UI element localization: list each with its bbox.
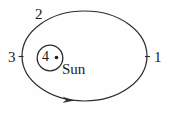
orbit-diagram-canvas [0,0,169,115]
sun-label: Sun [62,62,85,77]
orbit-ellipse [22,11,147,101]
orbit-direction-arrow-icon [63,97,73,102]
orbit-position-label-1: 1 [154,50,162,65]
orbit-diagram-figure: 2 3 1 4 Sun [0,0,169,115]
orbit-position-label-4: 4 [42,50,49,64]
orbit-position-label-3: 3 [8,50,16,65]
orbit-position-label-2: 2 [35,7,43,22]
sun-dot-icon [55,56,59,60]
